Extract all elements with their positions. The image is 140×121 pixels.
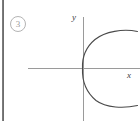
parabola-plot xyxy=(0,0,140,121)
parabola-upper-branch xyxy=(82,30,137,68)
x-axis-label: x xyxy=(127,70,131,80)
y-axis-label: y xyxy=(72,12,76,22)
figure-container: 3 y x xyxy=(0,0,140,121)
